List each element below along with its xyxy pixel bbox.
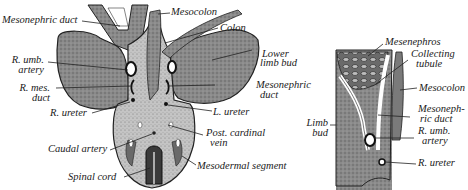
label-mesonephric-duct-right-panel-line2: ric duct — [420, 114, 452, 124]
label-mesocolon-right: Mesocolon — [419, 83, 465, 93]
label-l-ureter: L. ureter — [213, 107, 249, 117]
label-colon: Colon — [220, 23, 246, 33]
label-r-mes-duct-line2: duct — [14, 93, 50, 103]
label-r-ureter-right: R. ureter — [418, 158, 455, 168]
label-spinal-cord: Spinal cord — [68, 172, 116, 182]
label-collecting-tubule-line2: tubule — [416, 59, 442, 69]
label-post-cardinal-vein-line2: vein — [210, 138, 228, 148]
label-mesonephric-duct: Mesonephric duct — [2, 15, 78, 25]
label-r-ureter: R. ureter — [50, 108, 87, 118]
embryo-section-figure: Mesonephric duct Mesocolon Colon Lower l… — [0, 0, 468, 190]
label-caudal-artery: Caudal artery — [48, 144, 107, 154]
label-mesocolon: Mesocolon — [171, 7, 217, 17]
label-lower-limb-bud-line2: limb bud — [260, 58, 297, 68]
right-section — [330, 44, 417, 190]
label-r-umb-artery-right-line2: artery — [422, 136, 448, 146]
label-mesenephros: Mesenephros — [385, 37, 441, 47]
label-mesonephric-duct-right-line2: duct — [260, 90, 278, 100]
label-mesodermal-segment: Mesodermal segment — [197, 161, 287, 171]
label-r-umb-artery-line2: artery — [8, 65, 44, 75]
label-limb-bud-line2: bud — [300, 128, 328, 138]
